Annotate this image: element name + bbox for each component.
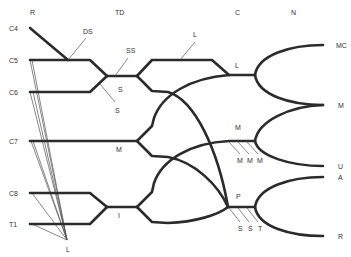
ulnar-nerve: [255, 141, 323, 166]
suprascapular-label: SS: [126, 47, 136, 54]
posterior-branch-label-1: S: [238, 225, 243, 232]
posterior-branch-label-3: T: [258, 225, 263, 232]
root-label-c4: C4: [9, 25, 18, 32]
inferior-trunk-posterior-division: [137, 207, 228, 223]
root-t1: [30, 207, 107, 224]
root-c5: [30, 60, 107, 76]
dorsal-scapular-label: DS: [83, 28, 93, 35]
header-nerves: N: [291, 9, 296, 16]
lateral-root-median: [255, 75, 323, 105]
root-label-c6: C6: [9, 89, 18, 96]
radial-nerve: [255, 207, 323, 236]
root-label-t1: T1: [9, 221, 17, 228]
posterior-cord-label: P: [236, 193, 241, 200]
medial-root-median: [255, 105, 323, 141]
medial-branch-label-1: M: [237, 157, 243, 164]
root-c4: [30, 28, 68, 60]
posterior-branch-label-2: S: [248, 225, 253, 232]
root-label-c7: C7: [9, 138, 18, 145]
upper-trunk-anterior-division: [137, 60, 229, 76]
header-roots: R: [30, 9, 35, 16]
medial-branch-label-3: M: [257, 157, 263, 164]
middle-trunk-anterior-division: [137, 75, 229, 141]
terminal-label-axillary: A: [338, 174, 343, 181]
lateral-cord-label: L: [235, 62, 239, 69]
musculocutaneous-nerve: [255, 45, 323, 75]
root-label-c8: C8: [9, 190, 18, 197]
terminal-label-median: M: [338, 102, 344, 109]
brachial-plexus-diagram: R TD C N C4 C5 C6 C7 C8 T1 L DS SS S S L…: [0, 0, 351, 257]
middle-trunk-label: M: [116, 146, 122, 153]
terminal-label-radial: R: [338, 233, 343, 240]
terminal-label-ulnar: U: [338, 163, 343, 170]
root-c6: [30, 76, 107, 92]
root-label-c5: C5: [9, 57, 18, 64]
root-c8: [30, 193, 107, 207]
axillary-nerve: [255, 177, 323, 207]
medial-branch-label-2: M: [247, 157, 253, 164]
long-thoracic-label: L: [66, 246, 70, 253]
long-thoracic-lines: [30, 60, 67, 240]
lateral-pectoral-label: L: [193, 31, 197, 38]
terminal-label-musculocutaneous: MC: [336, 42, 347, 49]
inferior-trunk-label: I: [118, 212, 120, 219]
medial-cord-label: M: [235, 124, 241, 131]
subclavius-upper-label: S: [118, 86, 123, 93]
header-cords: C: [235, 9, 240, 16]
subclavius-lower-label: S: [115, 107, 120, 114]
header-trunks-divisions: TD: [115, 9, 124, 16]
